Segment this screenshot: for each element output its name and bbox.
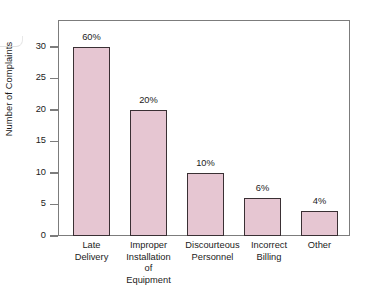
bar-improper-installation[interactable]	[130, 110, 167, 236]
y-tick-label: 15	[18, 135, 46, 145]
bar-label-improper-installation: 20%	[123, 95, 174, 105]
y-tick-label: 30	[18, 41, 46, 51]
x-label-line: Late	[62, 240, 121, 252]
bar-chart-figure: Number of Complaints 0 5 10 15 20	[0, 0, 367, 303]
bar-label-discourteous-personnel: 10%	[180, 158, 231, 168]
x-label-late-delivery: Late Delivery	[62, 240, 121, 263]
x-label-line: Other	[295, 240, 344, 252]
bar-other[interactable]	[301, 211, 338, 236]
y-tick-label: 25	[18, 72, 46, 82]
bar-discourteous-personnel[interactable]	[187, 173, 224, 236]
y-tick-label: 5	[18, 198, 46, 208]
y-tick-mark	[50, 46, 58, 48]
y-tick-mark	[50, 172, 58, 174]
x-label-line: Improper	[114, 240, 183, 252]
y-tick-label: 10	[18, 167, 46, 177]
bar-label-incorrect-billing: 6%	[237, 183, 288, 193]
x-label-line: Incorrect	[240, 240, 298, 252]
x-label-line: Billing	[240, 252, 298, 264]
x-label-line: Personnel	[176, 252, 249, 264]
x-label-line: Discourteous	[176, 240, 249, 252]
bar-incorrect-billing[interactable]	[244, 198, 281, 236]
x-label-line: Equipment	[114, 275, 183, 287]
y-tick-mark	[50, 109, 58, 111]
x-label-improper-installation: Improper Installation of Equipment	[114, 240, 183, 286]
y-axis-title: Number of Complaints	[4, 0, 14, 179]
x-label-discourteous-personnel: Discourteous Personnel	[176, 240, 249, 263]
x-label-line: Delivery	[62, 252, 121, 264]
x-label-other: Other	[295, 240, 344, 252]
y-tick-label: 0	[18, 230, 46, 240]
y-tick-mark	[50, 141, 58, 143]
x-label-incorrect-billing: Incorrect Billing	[240, 240, 298, 263]
bar-label-other: 4%	[294, 196, 345, 206]
x-label-line: Installation	[114, 252, 183, 264]
x-label-line: of	[114, 263, 183, 275]
y-tick-mark	[50, 235, 58, 237]
y-tick-mark	[50, 204, 58, 206]
y-tick-mark	[50, 78, 58, 80]
bar-label-late-delivery: 60%	[66, 32, 117, 42]
bar-late-delivery[interactable]	[73, 47, 110, 236]
y-tick-label: 20	[18, 104, 46, 114]
